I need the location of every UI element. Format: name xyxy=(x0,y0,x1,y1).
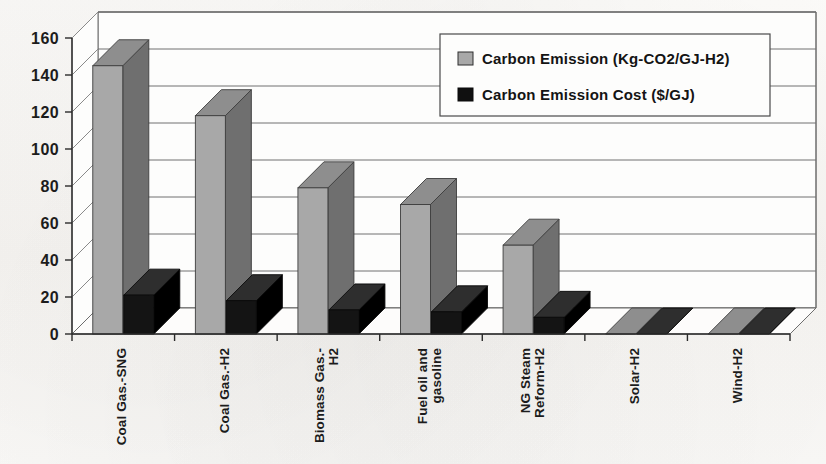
svg-text:NG Steam: NG Steam xyxy=(518,348,533,413)
legend-entry[interactable]: Carbon Emission Cost ($/GJ) xyxy=(458,86,695,103)
x-tick-label: Coal Gas.-SNG xyxy=(114,348,129,445)
y-axis-ticks: 160140120100806040200 xyxy=(31,30,72,343)
svg-text:Biomass Gas.-: Biomass Gas.- xyxy=(312,348,327,443)
y-tick-label: 60 xyxy=(40,215,59,232)
y-tick-label: 20 xyxy=(40,289,59,306)
y-tick-label: 40 xyxy=(40,252,59,269)
legend-swatch-gray-icon xyxy=(458,52,473,65)
y-tick-label: 100 xyxy=(31,141,59,158)
chart-container: 160140120100806040200 Coal Gas.-SNGCoal … xyxy=(0,0,826,464)
svg-text:gasoline: gasoline xyxy=(429,348,444,404)
x-tick-label: Solar-H2 xyxy=(627,348,642,404)
carbon-emission-3d-bar-chart: 160140120100806040200 Coal Gas.-SNGCoal … xyxy=(0,0,826,464)
y-tick-label: 140 xyxy=(31,67,59,84)
legend-swatch-black-icon xyxy=(458,88,473,101)
x-tick-label: Wind-H2 xyxy=(730,348,745,403)
svg-text:Fuel oil and: Fuel oil and xyxy=(415,348,430,424)
legend-frame xyxy=(440,34,770,116)
svg-text:Wind-H2: Wind-H2 xyxy=(730,348,745,403)
svg-text:H2: H2 xyxy=(326,348,341,365)
legend-entry-label: Carbon Emission Cost ($/GJ) xyxy=(482,86,695,103)
y-tick-label: 120 xyxy=(31,104,59,121)
x-tick-label: Fuel oil andgasoline xyxy=(415,348,444,425)
x-tick-label: Coal Gas.-H2 xyxy=(217,348,232,433)
y-tick-label: 160 xyxy=(31,30,59,47)
svg-text:Reform-H2: Reform-H2 xyxy=(532,348,547,418)
x-axis-ticks: Coal Gas.-SNGCoal Gas.-H2Biomass Gas.-H2… xyxy=(72,334,790,445)
x-tick-label: Biomass Gas.-H2 xyxy=(312,348,341,443)
legend-entry-label: Carbon Emission (Kg-CO2/GJ-H2) xyxy=(482,50,730,67)
y-tick-label: 80 xyxy=(40,178,59,195)
y-tick-label: 0 xyxy=(50,326,59,343)
chart-legend[interactable]: Carbon Emission (Kg-CO2/GJ-H2)Carbon Emi… xyxy=(440,34,770,116)
svg-text:Coal Gas.-SNG: Coal Gas.-SNG xyxy=(114,348,129,445)
x-tick-label: NG SteamReform-H2 xyxy=(518,348,547,418)
legend-entry[interactable]: Carbon Emission (Kg-CO2/GJ-H2) xyxy=(458,50,730,67)
svg-text:Coal Gas.-H2: Coal Gas.-H2 xyxy=(217,348,232,433)
svg-text:Solar-H2: Solar-H2 xyxy=(627,348,642,404)
